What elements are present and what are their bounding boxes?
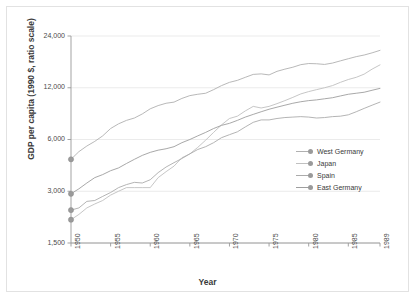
series-start-marker	[68, 191, 73, 196]
legend-marker-icon	[308, 161, 313, 166]
y-tick-label: 1,500	[23, 239, 65, 246]
series-line-west-germany	[71, 50, 380, 159]
y-tick-label: 12,000	[23, 83, 65, 90]
x-tick-label: 1950	[74, 233, 81, 249]
y-tick-label: 24,000	[23, 32, 65, 39]
legend-marker-icon	[308, 149, 313, 154]
x-tick-label: 1960	[153, 233, 160, 249]
legend-marker-icon	[308, 173, 313, 178]
legend-item[interactable]: East Germany	[296, 182, 364, 193]
x-axis-title: Year	[0, 277, 415, 287]
chart-figure: GDP per capita (1990 $, ratio scale) Yea…	[0, 0, 415, 298]
series-start-marker	[68, 208, 73, 213]
x-tick-label: 1985	[351, 233, 358, 249]
chart-legend: West Germany Japan Spain East Germany	[296, 146, 364, 194]
x-tick-label: 1955	[114, 233, 121, 249]
y-tick-label: 6,000	[23, 135, 65, 142]
legend-label: East Germany	[317, 184, 362, 191]
legend-label: Spain	[317, 172, 335, 179]
legend-label: Japan	[317, 160, 336, 167]
x-tick-label: 1970	[232, 233, 239, 249]
x-tick-label: 1980	[312, 233, 319, 249]
x-tick-label: 1989	[383, 233, 390, 249]
series-start-marker	[68, 157, 73, 162]
y-tick-label: 3,000	[23, 187, 65, 194]
legend-item[interactable]: Japan	[296, 158, 364, 169]
legend-label: West Germany	[317, 148, 364, 155]
legend-item[interactable]: Spain	[296, 170, 364, 181]
x-tick-label: 1975	[272, 233, 279, 249]
series-start-marker	[68, 217, 73, 222]
legend-item[interactable]: West Germany	[296, 146, 364, 157]
y-axis-title: GDP per capita (1990 $, ratio scale)	[26, 0, 36, 184]
legend-marker-icon	[308, 185, 313, 190]
x-tick-label: 1965	[193, 233, 200, 249]
